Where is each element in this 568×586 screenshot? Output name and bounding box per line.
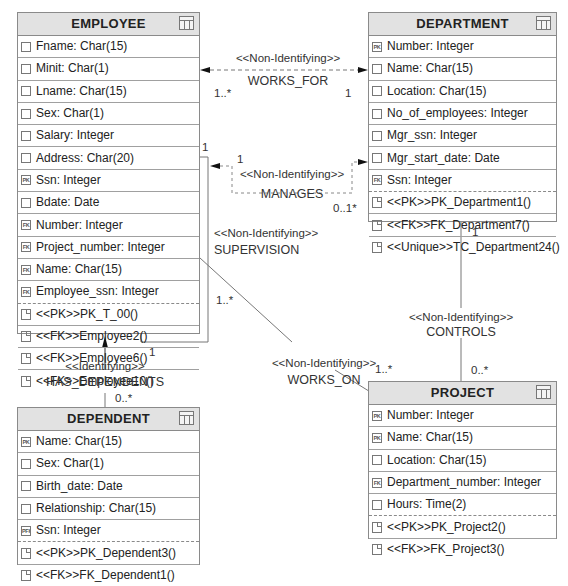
attribute-row[interactable]: Sex: Char(1): [18, 103, 199, 125]
attribute-row[interactable]: Location: Char(15): [369, 450, 556, 472]
attribute-row[interactable]: Relationship: Char(15): [18, 498, 199, 520]
supervision-mult-bottom: 1: [149, 346, 155, 358]
attribute-row[interactable]: Mgr_start_date: Date: [369, 147, 556, 169]
attribute-row[interactable]: Minit: Char(1): [18, 58, 199, 80]
entity-title: DEPARTMENT: [416, 16, 508, 31]
operation-icon: [372, 544, 382, 555]
attribute-row[interactable]: PFKSsn: Integer: [18, 520, 199, 542]
operation-row[interactable]: <<FK>>FK_Dependent1(): [18, 565, 199, 586]
works-on-mult-employee: 1..*: [216, 294, 233, 306]
attribute-row[interactable]: Mgr_ssn: Integer: [369, 125, 556, 147]
attribute-row[interactable]: Lname: Char(15): [18, 81, 199, 103]
operation-icon: [21, 353, 31, 364]
attribute-row[interactable]: Fname: Char(15): [18, 36, 199, 58]
entity-project[interactable]: PROJECT PKNumber: Integer PKName: Char(1…: [368, 381, 557, 539]
table-icon: [536, 16, 551, 30]
attribute-row[interactable]: PKName: Char(15): [369, 427, 556, 449]
attribute-row[interactable]: Bdate: Date: [18, 192, 199, 214]
operation-row[interactable]: <<Unique>>TC_Department24(): [369, 237, 556, 259]
attribute-row[interactable]: Sex: Char(1): [18, 453, 199, 475]
operation-icon: [372, 197, 382, 208]
table-icon: [179, 16, 194, 30]
works-on-mult-project: 1..*: [375, 363, 392, 375]
operation-row[interactable]: <<PK>>PK_Project2(): [369, 516, 556, 538]
arrowhead-icon: [358, 67, 368, 73]
attribute-row[interactable]: Address: Char(20): [18, 147, 199, 169]
arrowhead-icon: [200, 67, 210, 73]
has-dependents-name: HAS_DEPENDENTS: [35, 375, 175, 389]
entity-header: DEPENDENT: [18, 408, 199, 431]
entity-dependent[interactable]: DEPENDENT PKName: Char(15) Sex: Char(1) …: [17, 407, 200, 565]
works-for-mult-left: 1..*: [214, 87, 231, 99]
attribute-row[interactable]: Location: Char(15): [369, 81, 556, 103]
attribute-icon: [372, 86, 382, 96]
attribute-icon: [21, 131, 31, 141]
manages-mult-left: 1: [237, 153, 243, 165]
operation-row[interactable]: <<PK>>PK_Department1(): [369, 192, 556, 214]
works-on-line: [200, 258, 292, 342]
attribute-row[interactable]: FKProject_number: Integer: [18, 237, 199, 259]
attribute-row[interactable]: FKDepartment_number: Integer: [369, 472, 556, 494]
works-for-mult-right: 1: [345, 87, 351, 99]
attribute-row[interactable]: PKSsn: Integer: [18, 170, 199, 192]
attribute-icon: [21, 198, 31, 208]
primary-key-icon: PK: [372, 411, 382, 421]
operation-row[interactable]: <<PK>>PK_T_00(): [18, 304, 199, 326]
attribute-row[interactable]: PKNumber: Integer: [369, 36, 556, 58]
attribute-row[interactable]: Salary: Integer: [18, 125, 199, 147]
operation-icon: [21, 570, 31, 581]
manages-name: MANAGES: [234, 187, 350, 201]
attribute-icon: [372, 153, 382, 163]
operation-icon: [372, 220, 382, 231]
works-on-name: WORKS_ON: [266, 373, 382, 387]
controls-name: CONTROLS: [403, 325, 519, 339]
primary-key-icon: PK: [21, 437, 31, 447]
primary-key-icon: PK: [372, 433, 382, 443]
entity-title: DEPENDENT: [67, 411, 150, 426]
works-for-name: WORKS_FOR: [220, 74, 356, 88]
entity-department[interactable]: DEPARTMENT PKNumber: Integer Name: Char(…: [368, 12, 557, 222]
operation-icon: [21, 376, 31, 387]
controls-mult-bottom: 0..*: [471, 364, 488, 376]
attribute-row[interactable]: No_of_employees: Integer: [369, 103, 556, 125]
attribute-row[interactable]: Birth_date: Date: [18, 476, 199, 498]
supervision-mult-top: 1: [202, 141, 208, 153]
attribute-row[interactable]: PKNumber: Integer: [369, 405, 556, 427]
operation-row[interactable]: <<FK>>FK_Department7(): [369, 214, 556, 236]
operation-row[interactable]: <<FK>>Employee2(): [18, 326, 199, 348]
foreign-key-icon: FK: [372, 478, 382, 488]
attribute-row[interactable]: FKSsn: Integer: [369, 170, 556, 192]
operation-icon: [372, 242, 382, 253]
entity-header: DEPARTMENT: [369, 13, 556, 36]
attribute-row[interactable]: FKName: Char(15): [18, 259, 199, 281]
attribute-icon: [21, 64, 31, 74]
operation-row[interactable]: <<PK>>PK_Dependent3(): [18, 542, 199, 564]
foreign-key-icon: FK: [21, 287, 31, 297]
attribute-icon: [21, 504, 31, 514]
primary-foreign-key-icon: PFK: [21, 526, 31, 536]
operation-row[interactable]: <<FK>>FK_Project3(): [369, 539, 556, 561]
attribute-icon: [372, 500, 382, 510]
attribute-row[interactable]: Name: Char(15): [369, 58, 556, 80]
attribute-row[interactable]: FKNumber: Integer: [18, 214, 199, 236]
attribute-row[interactable]: FKEmployee_ssn: Integer: [18, 281, 199, 303]
manages-stereotype: <<Non-Identifying>>: [234, 168, 350, 180]
operation-icon: [21, 331, 31, 342]
foreign-key-icon: FK: [21, 265, 31, 275]
foreign-key-icon: FK: [372, 175, 382, 185]
manages-mult-right: 0..1*: [333, 202, 357, 214]
works-for-stereotype: <<Non-Identifying>>: [220, 52, 356, 64]
attribute-icon: [21, 42, 31, 52]
attribute-row[interactable]: PKName: Char(15): [18, 431, 199, 453]
primary-key-icon: PK: [21, 175, 31, 185]
controls-mult-top: 1: [472, 226, 478, 238]
attribute-icon: [372, 64, 382, 74]
entity-title: PROJECT: [431, 385, 495, 400]
entity-header: EMPLOYEE: [18, 13, 199, 36]
attribute-row[interactable]: Hours: Time(2): [369, 494, 556, 516]
entity-employee[interactable]: EMPLOYEE Fname: Char(15) Minit: Char(1) …: [17, 12, 200, 334]
attribute-icon: [21, 153, 31, 163]
supervision-name: SUPERVISION: [214, 243, 299, 257]
operation-icon: [372, 522, 382, 533]
attribute-icon: [21, 86, 31, 96]
